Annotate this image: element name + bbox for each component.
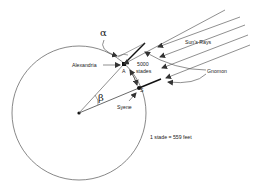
alexandria-label: Alexandria [72,62,97,68]
sun-ray [124,10,225,64]
gnomon-label: Gnomon [207,68,227,74]
point-s-label: S [140,87,144,93]
beta-label: β [98,92,104,103]
distance-unit-label: stades [136,68,152,74]
distance-value-label: 5000 [137,61,149,67]
alpha-label: α [100,27,107,38]
conversion-label: 1 stade = 559 feet [150,134,192,140]
syene-pointer [129,93,136,101]
point-a-label: A [122,68,126,74]
eratosthenes-diagram: α β Alexandria A Syene S 5000 stades Sun… [0,0,254,193]
syene-label: Syene [117,104,132,110]
suns-rays-label: Sun's Rays [185,39,211,45]
